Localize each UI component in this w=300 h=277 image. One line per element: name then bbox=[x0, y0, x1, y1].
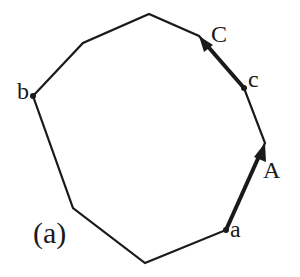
label-A: A bbox=[263, 157, 281, 183]
label-c: c bbox=[248, 66, 259, 92]
caption: (a) bbox=[33, 216, 66, 250]
arrow-c-to-C bbox=[204, 42, 244, 88]
label-b: b bbox=[17, 78, 29, 104]
label-C: C bbox=[211, 21, 227, 47]
vertex-b-dot bbox=[30, 93, 36, 99]
label-a: a bbox=[230, 216, 241, 242]
vertex-c-dot bbox=[241, 85, 247, 91]
vertex-a-dot bbox=[223, 227, 229, 233]
polygon-diagram: b C c A a (a) bbox=[0, 0, 300, 277]
